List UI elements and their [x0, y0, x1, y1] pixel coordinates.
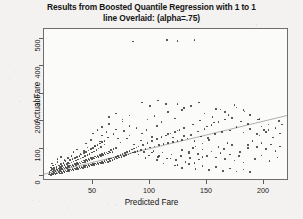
data-point — [161, 136, 163, 138]
data-point — [275, 127, 277, 129]
data-point — [83, 150, 85, 152]
data-point — [156, 159, 158, 161]
data-point — [221, 131, 223, 133]
data-point — [213, 122, 215, 124]
data-point — [140, 140, 142, 142]
data-point — [265, 131, 267, 133]
data-point — [100, 146, 102, 148]
data-point — [149, 105, 151, 107]
data-point — [134, 151, 136, 153]
data-point — [247, 144, 249, 146]
data-point — [192, 147, 194, 149]
data-point — [190, 134, 192, 136]
data-point — [265, 148, 267, 150]
data-point — [202, 156, 204, 158]
data-point — [218, 146, 220, 148]
data-point — [76, 156, 78, 158]
data-point — [96, 149, 98, 151]
data-point — [129, 150, 131, 152]
data-point — [249, 128, 251, 130]
data-point — [84, 161, 86, 163]
data-point — [77, 163, 79, 165]
data-point — [180, 155, 182, 157]
y-tick-label: 0 — [33, 175, 42, 191]
data-point — [158, 155, 160, 157]
data-point — [90, 139, 92, 141]
background-speck — [47, 210, 48, 211]
y-tick-label: 500 — [33, 37, 42, 53]
data-point — [85, 151, 87, 153]
data-point — [94, 145, 96, 147]
background-speck — [300, 202, 301, 203]
y-tick-label: 400 — [33, 65, 42, 81]
data-point — [183, 107, 185, 109]
data-point — [132, 41, 134, 43]
data-point — [136, 127, 138, 129]
data-point — [165, 103, 167, 105]
data-point — [52, 174, 54, 176]
data-point — [218, 121, 220, 123]
data-point — [157, 100, 159, 102]
data-point — [83, 152, 85, 154]
data-point — [229, 130, 231, 132]
data-point — [161, 121, 163, 123]
data-point — [183, 135, 185, 137]
data-point — [215, 157, 217, 159]
data-point — [174, 118, 176, 120]
data-point — [222, 170, 224, 172]
data-point — [279, 133, 281, 135]
data-point — [174, 131, 176, 133]
background-speck — [20, 110, 21, 112]
x-tick-mark — [92, 180, 93, 184]
data-point — [92, 147, 94, 149]
background-speck — [5, 64, 6, 65]
background-speck — [115, 204, 116, 206]
background-speck — [32, 200, 33, 201]
data-point — [101, 126, 103, 128]
data-point — [206, 155, 208, 157]
data-point — [156, 125, 158, 127]
data-point — [99, 141, 101, 143]
data-point — [177, 40, 179, 42]
data-point — [55, 173, 57, 175]
data-point — [215, 108, 217, 110]
x-tick-label: 200 — [251, 186, 275, 195]
data-point — [112, 159, 114, 161]
data-point — [137, 150, 139, 152]
data-point — [278, 120, 280, 122]
background-speck — [275, 197, 276, 198]
data-point — [231, 117, 233, 119]
data-point — [234, 104, 236, 106]
data-point — [109, 160, 111, 162]
data-point — [224, 158, 226, 160]
data-point — [68, 170, 70, 172]
background-speck — [179, 9, 180, 10]
background-speck — [39, 201, 40, 202]
data-point — [151, 140, 153, 142]
data-point — [79, 155, 81, 157]
data-point — [247, 123, 249, 125]
background-speck — [108, 203, 109, 205]
data-point — [142, 144, 144, 146]
data-point — [51, 163, 53, 165]
data-point — [87, 154, 89, 156]
data-point — [143, 151, 145, 153]
y-tick-label: 200 — [33, 120, 42, 136]
background-speck — [30, 190, 31, 191]
data-point — [189, 157, 191, 159]
data-point — [117, 138, 119, 140]
data-point — [181, 109, 183, 111]
data-point — [87, 160, 89, 162]
data-point — [256, 146, 258, 148]
background-speck — [231, 192, 232, 193]
background-speck — [67, 207, 68, 209]
data-point — [87, 166, 89, 168]
data-point — [67, 157, 69, 159]
data-point — [215, 166, 217, 168]
data-point — [198, 102, 200, 104]
data-point — [166, 39, 168, 41]
data-point — [208, 169, 210, 171]
background-speck — [256, 24, 257, 26]
chart-container: Results from Boosted Quantile Regression… — [0, 0, 303, 219]
data-point — [115, 147, 117, 149]
